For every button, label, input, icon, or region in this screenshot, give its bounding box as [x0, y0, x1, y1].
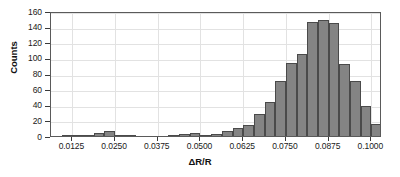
y-tick-label: 160 — [2, 8, 42, 17]
histogram-bar — [104, 131, 115, 136]
y-tick-mark — [45, 43, 50, 44]
plot-area — [50, 12, 381, 137]
x-tick-label: 0.0875 — [305, 141, 351, 151]
x-tick-label: 0.0125 — [48, 141, 94, 151]
histogram-bar — [83, 135, 94, 137]
histogram-bar — [179, 134, 190, 136]
histogram-bar — [94, 133, 105, 136]
y-tick-label: 0 — [2, 133, 42, 142]
histogram-bar — [254, 114, 265, 136]
histogram-bar — [222, 131, 233, 136]
bar-series — [51, 13, 380, 136]
histogram-bar — [297, 54, 308, 136]
x-tick-label: 0.0500 — [176, 141, 222, 151]
y-tick-label: 80 — [2, 70, 42, 79]
histogram-bar — [286, 63, 297, 136]
histogram-figure: Counts 020406080100120140160 0.01250.025… — [0, 0, 400, 177]
y-tick-label: 140 — [2, 23, 42, 32]
histogram-bar — [307, 22, 318, 136]
x-tick-label: 0.1000 — [347, 141, 393, 151]
histogram-bar — [265, 102, 276, 136]
y-tick-mark — [45, 106, 50, 107]
histogram-bar — [200, 135, 211, 137]
y-tick-label: 60 — [2, 86, 42, 95]
y-tick-mark — [45, 121, 50, 122]
y-tick-mark — [45, 12, 50, 13]
histogram-bar — [318, 20, 329, 136]
y-tick-mark — [45, 59, 50, 60]
histogram-bar — [211, 134, 222, 136]
x-tick-label: 0.0250 — [91, 141, 137, 151]
x-axis-label: ΔR/R — [0, 156, 400, 167]
y-tick-mark — [45, 137, 50, 138]
histogram-bar — [361, 106, 372, 136]
histogram-bar — [371, 124, 380, 136]
y-tick-label: 40 — [2, 101, 42, 110]
histogram-bar — [126, 135, 137, 137]
x-tick-label: 0.0375 — [134, 141, 180, 151]
y-tick-mark — [45, 28, 50, 29]
x-tick-label: 0.0750 — [262, 141, 308, 151]
histogram-bar — [243, 125, 254, 136]
histogram-bar — [275, 81, 286, 136]
y-tick-label: 120 — [2, 39, 42, 48]
histogram-bar — [72, 135, 83, 137]
histogram-bar — [329, 23, 340, 136]
y-tick-label: 20 — [2, 117, 42, 126]
histogram-bar — [233, 128, 244, 136]
histogram-bar — [190, 133, 201, 136]
y-tick-mark — [45, 75, 50, 76]
histogram-bar — [115, 135, 126, 137]
y-tick-mark — [45, 90, 50, 91]
x-tick-label: 0.0625 — [219, 141, 265, 151]
histogram-bar — [62, 135, 73, 137]
histogram-bar — [168, 135, 179, 137]
y-tick-label: 100 — [2, 54, 42, 63]
histogram-bar — [350, 81, 361, 136]
histogram-bar — [339, 64, 350, 136]
